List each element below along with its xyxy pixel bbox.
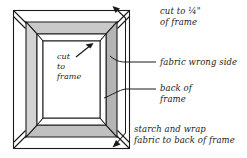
frame-band-left xyxy=(26,22,37,137)
label-back-of-frame: back of frame xyxy=(160,83,192,104)
bevel-bottom xyxy=(37,118,106,125)
frame-band-bottom xyxy=(26,125,117,137)
frame-fabric-diagram: cut to ¼" of frame fabric wrong side bac… xyxy=(0,0,247,158)
frame-band-right xyxy=(106,22,117,137)
label-cut-to-quarter-inch: cut to ¼" of frame xyxy=(160,6,201,27)
bevel-left xyxy=(37,34,43,125)
bevel-top xyxy=(37,34,106,41)
label-starch-and-wrap: starch and wrap fabric to back of frame xyxy=(134,124,235,145)
frame-band-top xyxy=(26,22,117,34)
label-cut-to-frame: cut to frame xyxy=(57,52,81,82)
label-fabric-wrong-side: fabric wrong side xyxy=(160,57,237,68)
bevel-right xyxy=(100,34,106,125)
